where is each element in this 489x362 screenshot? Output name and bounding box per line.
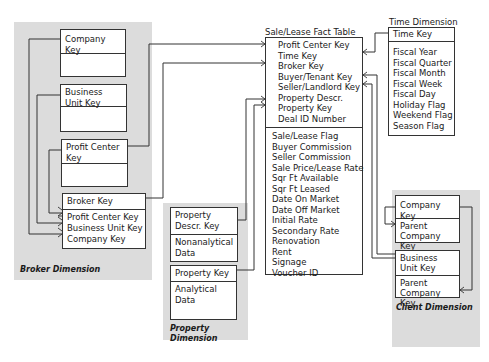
- company-parent-line: [385, 207, 395, 224]
- profit-center-to-broker-line: [49, 150, 62, 213]
- bu-parent-line: [460, 207, 472, 290]
- property-descr-to-fact-line: [238, 99, 265, 220]
- profit-center-to-fact-line: [128, 44, 265, 146]
- company-to-broker-line: [29, 39, 62, 234]
- relationship-lines: [0, 0, 489, 362]
- seller-to-client-line: [363, 84, 395, 258]
- buyer-to-client-line: [363, 75, 395, 254]
- broker-to-fact-line: [146, 63, 265, 198]
- property-key-to-fact-line: [237, 105, 265, 270]
